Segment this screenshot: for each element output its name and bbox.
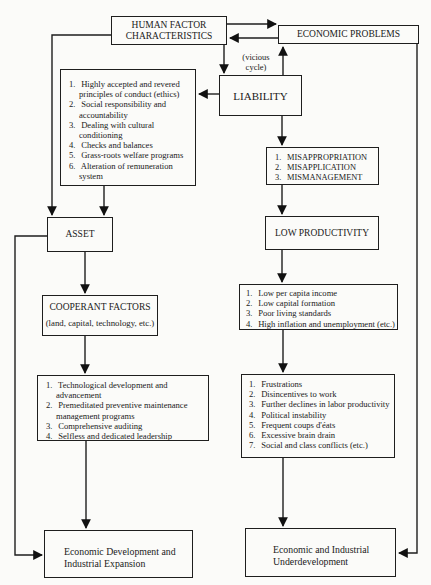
misuse-item: 2. MISAPPLICATION	[275, 163, 378, 173]
misuse-item: 3. MISMANAGEMENT	[275, 173, 378, 183]
low-productivity-box: LOW PRODUCTIVITY	[265, 216, 379, 250]
underdevelopment-box: Economic and Industrial Underdevelopment	[245, 528, 396, 577]
asset-action-item: 3. Comprehensive auditing	[46, 421, 202, 431]
vicious-cycle-line2: cycle)	[234, 62, 278, 72]
remedy-item: 4. Checks and balances	[69, 140, 189, 150]
consequence-item: 7. Social and class conflicts (etc.)	[249, 440, 390, 450]
asset-box: ASSET	[47, 217, 113, 252]
consequences-list: 1. Frustrations 2. Disincentives to work…	[249, 379, 390, 450]
asset-actions-list: 1. Technological development and advance…	[46, 380, 202, 441]
remedy-item: 1. Highly accepted and revered principle…	[69, 79, 189, 99]
misuse-list: 1. MISAPPROPRIATION 2. MISAPPLICATION 3.…	[275, 153, 378, 184]
remedy-item: 5. Grass-roots welfare programs	[69, 150, 189, 160]
asset-action-item: 2. Premeditated preventive maintenance m…	[46, 400, 202, 420]
misuse-box: 1. MISAPPROPRIATION 2. MISAPPLICATION 3.…	[266, 147, 379, 185]
development-box: Economic Development and Industrial Expa…	[44, 530, 193, 578]
remedy-item: 3. Dealing with cultural conditioning	[69, 120, 189, 140]
remedy-item: 2. Social responsibility and accountabil…	[69, 99, 189, 119]
low-income-box: 1. Low per capita income 2. Low capital …	[239, 284, 398, 330]
liability-box: LIABILITY	[219, 75, 302, 116]
asset-action-item: 1. Technological development and advance…	[46, 380, 202, 400]
asset-label: ASSET	[65, 229, 94, 240]
vicious-cycle-line1: (vicious	[234, 52, 278, 62]
human-factor-characteristics-box: HUMAN FACTOR CHARACTERISTICS	[111, 16, 227, 45]
low-income-item: 3. Poor living standards	[246, 308, 397, 318]
remedy-item: 6. Alteration of remuneration system	[69, 161, 189, 181]
low-income-item: 2. Low capital formation	[246, 298, 397, 308]
human-factor-line2: CHARACTERISTICS	[126, 31, 213, 42]
asset-actions-box: 1. Technological development and advance…	[37, 375, 209, 441]
consequence-item: 4. Political instability	[249, 410, 390, 420]
consequences-box: 1. Frustrations 2. Disincentives to work…	[241, 374, 395, 458]
human-factor-line1: HUMAN FACTOR	[132, 20, 207, 31]
low-income-item: 4. High inflation and unemployment (etc.…	[246, 319, 397, 329]
misuse-item: 1. MISAPPROPRIATION	[275, 153, 378, 163]
underdevelopment-line2: Underdevelopment	[273, 556, 395, 568]
development-line2: Industrial Expansion	[64, 558, 192, 570]
consequence-item: 3. Further declines in labor productivit…	[249, 399, 390, 409]
vicious-cycle-label: (vicious cycle)	[234, 52, 278, 72]
liability-label: LIABILITY	[233, 90, 287, 102]
economic-problems-label: ECONOMIC PROBLEMS	[297, 29, 400, 40]
low-income-item: 1. Low per capita income	[246, 288, 397, 298]
development-line1: Economic Development and	[64, 546, 192, 558]
cooperant-factors-label: COOPERANT FACTORS	[49, 302, 150, 313]
low-income-list: 1. Low per capita income 2. Low capital …	[246, 288, 397, 329]
consequence-item: 6. Excessive brain drain	[249, 430, 390, 440]
consequence-item: 2. Disincentives to work	[249, 389, 390, 399]
asset-action-item: 4. Selfless and dedicated leadership	[46, 431, 202, 441]
remedies-box: 1. Highly accepted and revered principle…	[60, 69, 196, 186]
underdevelopment-line1: Economic and Industrial	[273, 544, 395, 556]
remedies-list: 1. Highly accepted and revered principle…	[69, 79, 189, 181]
economic-problems-box: ECONOMIC PROBLEMS	[278, 25, 419, 44]
low-productivity-label: LOW PRODUCTIVITY	[275, 228, 369, 239]
consequence-item: 5. Frequent coups d'éats	[249, 420, 390, 430]
consequence-item: 1. Frustrations	[249, 379, 390, 389]
cooperant-factors-box: COOPERANT FACTORS (land, capital, techno…	[42, 295, 158, 336]
cooperant-factors-sub: (land, capital, technology, etc.)	[46, 318, 155, 329]
